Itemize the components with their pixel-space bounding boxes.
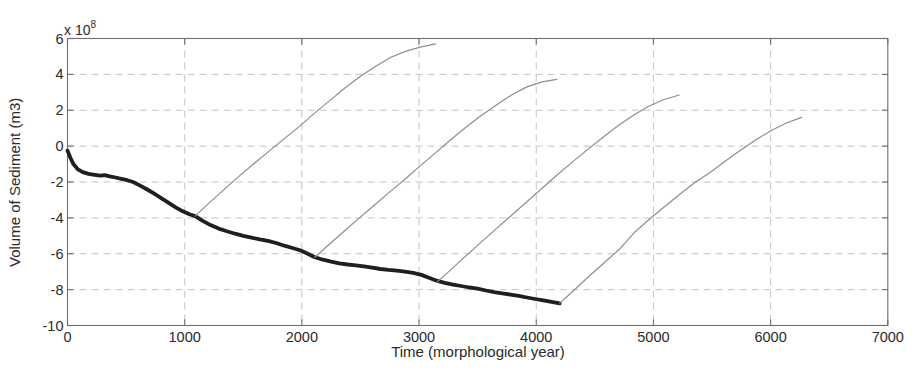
series-thick-black-baseline [68, 151, 560, 304]
y-tick-label: -8 [51, 282, 64, 298]
exponent-power: 8 [90, 19, 96, 30]
y-tick-label: 2 [55, 102, 63, 118]
series-thin-gray-scenario-1 [195, 44, 435, 216]
y-tick-label: -10 [43, 318, 64, 334]
x-tick-label: 0 [63, 329, 71, 345]
plot-area: 010002000300040005000600070006420-2-4-6-… [0, 0, 923, 381]
series-thin-gray-scenario-2 [315, 79, 557, 257]
x-tick-label: 2000 [286, 329, 318, 345]
y-tick-label: -2 [51, 174, 64, 190]
series-thin-gray-scenario-3 [437, 95, 680, 282]
x-axis-title: Time (morphological year) [328, 343, 628, 360]
figure-canvas: 010002000300040005000600070006420-2-4-6-… [0, 0, 923, 381]
y-tick-label: -6 [51, 246, 64, 262]
x-tick-label: 6000 [754, 329, 786, 345]
x-tick-label: 1000 [169, 329, 201, 345]
x-tick-label: 7000 [872, 329, 904, 345]
y-tick-label: 0 [55, 138, 63, 154]
y-axis-title: Volume of Sediment (m3) [6, 99, 24, 267]
y-tick-label: -4 [51, 210, 64, 226]
y-axis-exponent-label: x 108 [64, 20, 96, 38]
exponent-mantissa: x 10 [64, 22, 90, 38]
x-tick-label: 5000 [637, 329, 669, 345]
y-tick-label: 6 [55, 31, 63, 47]
y-tick-label: 4 [55, 66, 63, 82]
series-thin-gray-scenario-4 [560, 117, 802, 303]
